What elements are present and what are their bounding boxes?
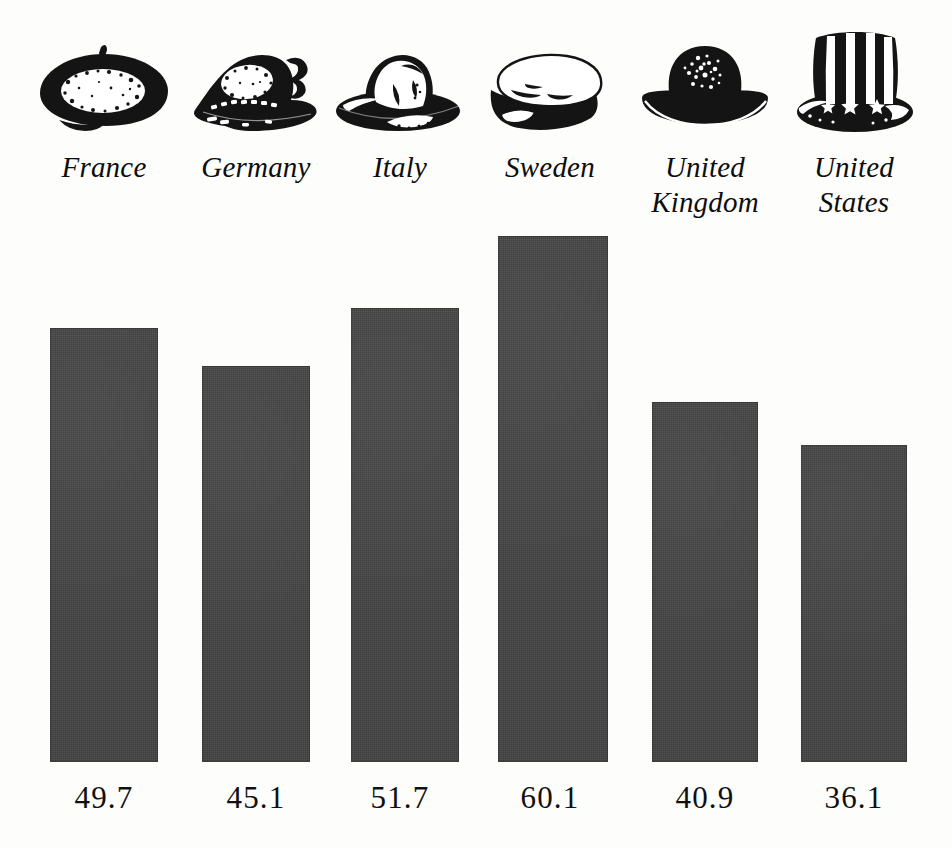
value-label-france: 49.7	[24, 780, 184, 816]
country-label-line: Germany	[176, 150, 336, 185]
top-hat-icon	[774, 28, 934, 138]
country-label-germany: Germany	[176, 150, 336, 185]
country-label-line: United	[774, 150, 934, 185]
beret-hat-icon	[24, 28, 184, 138]
country-label-line: United	[625, 150, 785, 185]
country-label-sweden: Sweden	[470, 150, 630, 185]
bar-united-kingdom	[652, 402, 758, 762]
value-label-united-states: 36.1	[774, 780, 934, 816]
chart-column-united-kingdom: United Kingdom 40.9	[625, 0, 785, 848]
bar-united-states	[801, 445, 907, 762]
country-label-france: France	[24, 150, 184, 185]
country-label-line: Kingdom	[625, 185, 785, 220]
bar-france	[50, 328, 158, 762]
bar-italy	[351, 308, 459, 762]
country-label-united-kingdom: United Kingdom	[625, 150, 785, 221]
chart-figure: France 49.7	[0, 0, 952, 848]
value-label-united-kingdom: 40.9	[625, 780, 785, 816]
value-label-italy: 51.7	[320, 780, 480, 816]
tyrolean-hat-icon	[176, 28, 336, 138]
chart-column-sweden: Sweden 60.1	[470, 0, 630, 848]
bar-germany	[202, 366, 310, 762]
country-label-italy: Italy	[320, 150, 480, 185]
chart-column-germany: Germany 45.1	[176, 0, 336, 848]
bar-sweden	[498, 236, 608, 762]
fedora-hat-icon	[320, 28, 480, 138]
student-cap-icon	[470, 28, 630, 138]
chart-column-united-states: United States 36.1	[774, 0, 934, 848]
country-label-line: France	[24, 150, 184, 185]
country-label-line: Sweden	[470, 150, 630, 185]
country-label-line: States	[774, 185, 934, 220]
country-label-united-states: United States	[774, 150, 934, 221]
country-label-line: Italy	[320, 150, 480, 185]
value-label-sweden: 60.1	[470, 780, 630, 816]
chart-column-france: France 49.7	[24, 0, 184, 848]
chart-column-italy: Italy 51.7	[320, 0, 480, 848]
bowler-hat-icon	[625, 28, 785, 138]
value-label-germany: 45.1	[176, 780, 336, 816]
